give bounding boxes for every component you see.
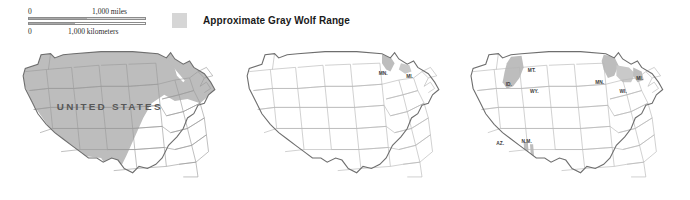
map3-state-label-id: ID. [506, 82, 513, 87]
map3-state-label-wy: WY. [530, 89, 539, 94]
map3-state-label-mi: MI. [636, 76, 643, 81]
scale-bottom-zero-label: 0 [28, 26, 32, 37]
map2-state-label-mi: MI. [406, 74, 413, 79]
scale-top-zero-label: 0 [28, 6, 32, 17]
scale-bar-top-labels: 0 1,000 miles [28, 6, 146, 17]
map-panel-historic: UNITED STATES [8, 40, 230, 198]
scale-bar-bottom-labels: 0 1,000 kilometers [28, 26, 146, 37]
figure-root: 0 1,000 miles 0 1,000 kilometers Approxi… [0, 0, 690, 200]
map-panel-recovery: MT. ID. WY. MN. WI. MI. AZ. N.M. [456, 40, 684, 198]
scale-bar-graphic [28, 17, 146, 26]
scale-bar: 0 1,000 miles 0 1,000 kilometers [28, 6, 146, 37]
map3-state-label-az: AZ. [496, 141, 504, 146]
scale-bar-miles-fill-light [87, 18, 145, 19]
map-panel-reduced: MN. MI. [232, 40, 454, 198]
map3-state-label-mn: MN. [595, 80, 605, 85]
map3-state-label-mt: MT. [528, 68, 536, 73]
scale-bottom-kilometers-label: 1,000 kilometers [68, 26, 118, 37]
scale-bar-kilometers-fill [29, 23, 75, 24]
legend: Approximate Gray Wolf Range [172, 13, 350, 28]
scale-top-miles-label: 1,000 miles [92, 6, 127, 17]
map3-state-label-wi: WI. [620, 89, 628, 94]
scale-bar-kilometers [28, 22, 146, 25]
scale-bar-miles [28, 17, 146, 20]
map2-state-label-mn: MN. [379, 71, 389, 76]
legend-label-gray-wolf-range: Approximate Gray Wolf Range [203, 15, 350, 26]
map1-country-label: UNITED STATES [57, 101, 163, 112]
legend-swatch-gray-wolf-range [172, 13, 187, 28]
scale-bar-miles-fill [29, 18, 87, 19]
map3-state-label-nm: N.M. [522, 139, 533, 144]
